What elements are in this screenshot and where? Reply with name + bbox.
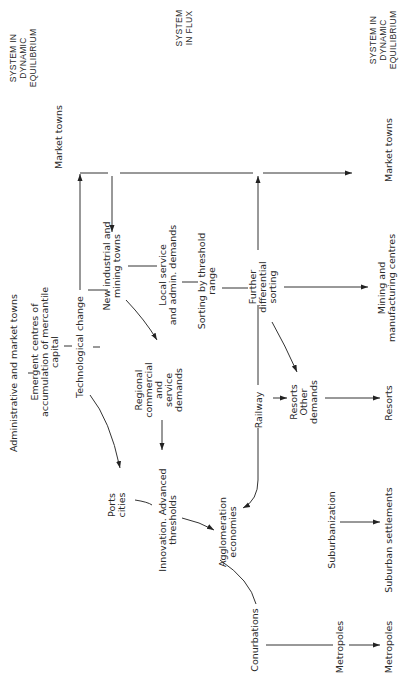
node-ports-cities: Ports cities — [106, 492, 127, 517]
node-resorts-end: Resorts — [383, 385, 394, 420]
innovation-line2: thresholds — [167, 495, 178, 545]
node-suburbanization: Suburbanization — [326, 491, 337, 569]
node-further-sorting: Further differential sorting — [247, 261, 278, 312]
arrow-new-to-regional — [126, 300, 157, 340]
header-right: SYSTEM IN DYNAMIC EQUILIBRIUM — [368, 11, 398, 70]
local-service-line2: and admin. demands — [167, 225, 178, 326]
header-left-line1: SYSTEM IN — [8, 34, 18, 83]
header-right-line2: DYNAMIC — [378, 19, 388, 60]
node-regional-commercial: Regional commercial and service demands — [133, 362, 184, 417]
agglomeration-line2: economies — [227, 506, 238, 557]
settlement-evolution-diagram: SYSTEM IN DYNAMIC EQUILIBRIUM SYSTEM IN … — [0, 0, 410, 682]
node-resorts-other: Resorts Other demands — [288, 380, 319, 424]
node-suburban-settlements: Suburban settlements — [383, 487, 394, 592]
sorting-line2: range — [206, 267, 217, 295]
header-left-line3: EQUILIBRIUM — [28, 29, 38, 88]
line-ports-to-innovation — [135, 500, 152, 505]
node-new-industrial: New industrial and mining towns — [101, 221, 122, 310]
arrow-railway-to-agglomeration — [243, 480, 258, 508]
node-agglomeration: Agglomeration economies — [217, 497, 238, 567]
node-market-towns-start: Market towns — [53, 105, 64, 169]
header-right-line3: EQUILIBRIUM — [388, 11, 398, 70]
node-metropoles-mid: Metropoles — [334, 621, 345, 674]
node-sorting-threshold: Sorting by threshold range — [196, 233, 217, 330]
header-right-line1: SYSTEM IN — [368, 16, 378, 65]
ports-line2: cities — [116, 492, 127, 517]
node-mining-manufacturing: Mining and manufacturing centres — [376, 234, 397, 342]
regional-line5: demands — [173, 368, 184, 412]
node-market-towns-end: Market towns — [383, 118, 394, 182]
arrow-tech-to-ports — [90, 395, 120, 468]
header-middle-line1: SYSTEM — [174, 10, 184, 47]
node-technological-change: Technological change — [74, 296, 85, 399]
arrow-innovation-to-agglomeration — [182, 518, 214, 530]
new-industrial-line2: mining towns — [111, 234, 122, 298]
node-metropoles-end: Metropoles — [383, 621, 394, 674]
mining-line2: manufacturing centres — [386, 234, 397, 342]
resorts-other-line3: demands — [308, 380, 319, 424]
header-left: SYSTEM IN DYNAMIC EQUILIBRIUM — [8, 29, 38, 88]
node-innovation: Innovation. Advanced thresholds — [157, 468, 178, 571]
header-left-line2: DYNAMIC — [18, 37, 28, 78]
header-middle-line2: IN FLUX — [184, 11, 194, 46]
emergent-line3: capital — [49, 336, 60, 368]
node-admin-market-towns: Administrative and market towns — [8, 294, 19, 452]
node-emergent-centres: Emergent centres of accumulation of merc… — [29, 287, 60, 417]
node-railway: Railway — [253, 391, 264, 428]
further-line3: sorting — [267, 270, 278, 303]
node-conurbations: Conurbations — [249, 608, 260, 671]
node-local-service: Local service and admin. demands — [157, 225, 178, 326]
arrow-further-to-resorts — [272, 322, 297, 372]
header-middle: SYSTEM IN FLUX — [174, 10, 194, 47]
